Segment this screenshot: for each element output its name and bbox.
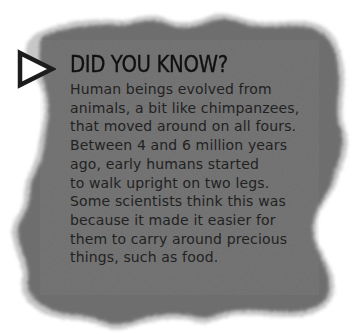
body-line: that moved around on all fours.: [70, 117, 330, 136]
body-line: Some scientists think this was: [70, 192, 330, 211]
body-line: Human beings evolved from: [70, 80, 330, 99]
play-triangle-icon: [14, 48, 58, 90]
body-line: animals, a bit like chimpanzees,: [70, 99, 330, 118]
body-line: because it made it easier for: [70, 211, 330, 230]
fact-box-body: Human beings evolved from animals, a bit…: [70, 80, 330, 267]
body-line: them to carry around precious: [70, 230, 330, 249]
fact-box-content: DID YOU KNOW? Human beings evolved from …: [70, 50, 330, 267]
body-line: ago, early humans started: [70, 155, 330, 174]
fact-box-heading: DID YOU KNOW?: [70, 50, 294, 78]
body-line: things, such as food.: [70, 248, 330, 267]
body-line: to walk upright on two legs.: [70, 174, 330, 193]
body-line: Between 4 and 6 million years: [70, 136, 330, 155]
